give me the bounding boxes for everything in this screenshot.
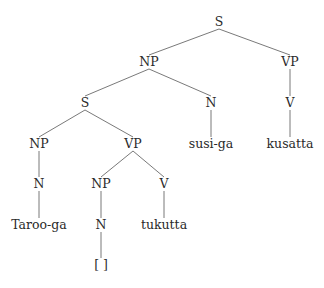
edge-s0-np1	[149, 29, 219, 55]
node-np1: NP	[139, 54, 158, 69]
node-w_taroo: Taroo-ga	[11, 217, 67, 232]
node-vp3: VP	[123, 136, 141, 151]
node-v2: V	[284, 95, 295, 110]
node-v4: V	[158, 176, 169, 191]
node-s2: S	[81, 95, 90, 110]
edge-np1-s2	[85, 69, 149, 96]
node-s0: S	[215, 14, 224, 29]
tree-nodes: SNPVPSNVNPVPsusi-gakusattaNNPVTaroo-gaNt…	[11, 14, 314, 272]
edge-vp3-np4	[101, 151, 133, 177]
edge-np1-n2	[149, 69, 211, 96]
node-w_kusatta: kusatta	[267, 136, 315, 151]
syntax-tree-diagram: SNPVPSNVNPVPsusi-gakusattaNNPVTaroo-gaNt…	[0, 0, 324, 288]
node-n4: N	[34, 176, 45, 191]
edge-vp3-v4	[133, 151, 164, 177]
node-n2: N	[206, 95, 217, 110]
node-n5: N	[96, 217, 107, 232]
node-np3: NP	[29, 136, 48, 151]
edge-s2-np3	[39, 110, 85, 137]
node-w_tukutta: tukutta	[141, 217, 188, 232]
node-gap: [ ]	[94, 257, 108, 272]
node-np4: NP	[91, 176, 110, 191]
edge-s2-vp3	[85, 110, 133, 137]
node-w_susi: susi-ga	[189, 136, 234, 151]
node-vp1: VP	[280, 54, 298, 69]
edge-s0-vp1	[219, 29, 290, 55]
